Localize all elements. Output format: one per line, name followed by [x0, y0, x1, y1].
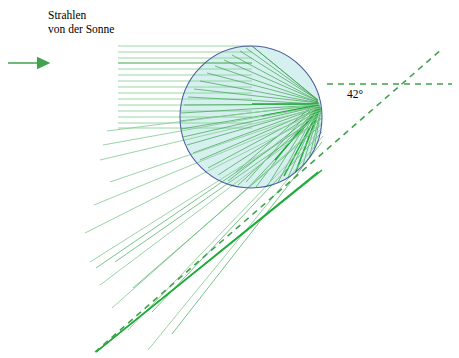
rainbow-diagram: Strahlen von der Sonne 42° — [0, 0, 459, 358]
caustic-ray — [96, 170, 322, 352]
sunlight-label: Strahlen von der Sonne — [48, 8, 114, 36]
rainbow-angle-label: 42° — [347, 88, 363, 100]
diagram-canvas — [0, 0, 459, 358]
